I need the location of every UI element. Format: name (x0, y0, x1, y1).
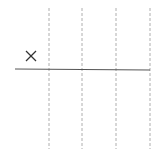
diagram-canvas (0, 0, 162, 149)
x-marker-icon (26, 51, 36, 61)
baseline (15, 69, 150, 70)
dashed-guide-lines (49, 8, 150, 149)
